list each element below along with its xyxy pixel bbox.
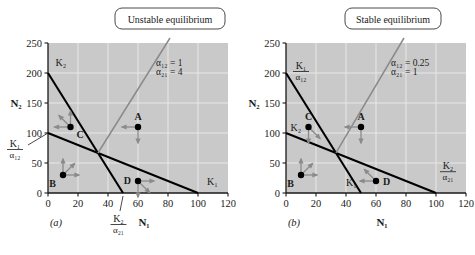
k2-label: K₂ bbox=[291, 122, 302, 133]
k1-over-a12: K₁α₁₂ bbox=[7, 138, 23, 161]
panel-caption: (a) bbox=[50, 217, 63, 229]
point-label-C: C bbox=[77, 129, 84, 140]
k1-label: K₁ bbox=[346, 177, 357, 188]
point-label-D: D bbox=[383, 176, 390, 187]
x-tick-120: 120 bbox=[458, 198, 474, 209]
x-tick-100: 100 bbox=[190, 198, 206, 209]
alpha21-value: α₂₁ = 4 bbox=[156, 67, 183, 77]
x-tick-80: 80 bbox=[401, 198, 412, 209]
x-tick-60: 60 bbox=[371, 198, 382, 209]
equilibrium-callout-text: Unstable equilibrium bbox=[128, 14, 213, 25]
y-axis-label: N₂ bbox=[10, 97, 22, 109]
point-label-B: B bbox=[49, 178, 56, 189]
y-tick-200: 200 bbox=[26, 68, 42, 79]
y-axis-label: N₂ bbox=[248, 97, 260, 109]
panel-a: 020406080100120050100150200250N₁N₂(a)K₂K… bbox=[0, 0, 237, 255]
x-tick-80: 80 bbox=[163, 198, 174, 209]
svg-text:α₁₂: α₁₂ bbox=[10, 150, 21, 160]
alpha12-value: α₁₂ = 0.25 bbox=[391, 58, 430, 68]
x-tick-40: 40 bbox=[341, 198, 352, 209]
panel-b: 020406080100120050100150200250N₁N₂(b)K₂K… bbox=[238, 0, 475, 255]
parameter-block: α₁₂ = 1α₂₁ = 4 bbox=[156, 58, 183, 78]
svg-text:K₁: K₁ bbox=[296, 60, 307, 71]
x-tick-0: 0 bbox=[45, 198, 50, 209]
alpha21-value: α₂₁ = 1 bbox=[391, 67, 418, 77]
y-tick-150: 150 bbox=[26, 98, 42, 109]
y-tick-250: 250 bbox=[264, 38, 280, 49]
svg-text:α₂₁: α₂₁ bbox=[113, 225, 124, 235]
equilibrium-callout: Stable equilibrium bbox=[345, 8, 441, 29]
svg-text:α₁₂: α₁₂ bbox=[296, 72, 307, 82]
point-label-B: B bbox=[287, 178, 294, 189]
data-point-A: A bbox=[134, 111, 142, 130]
y-tick-250: 250 bbox=[26, 38, 42, 49]
y-tick-50: 50 bbox=[270, 158, 281, 169]
y-tick-100: 100 bbox=[26, 128, 42, 139]
equilibrium-callout: Unstable equilibrium bbox=[115, 8, 225, 29]
y-tick-100: 100 bbox=[264, 128, 280, 139]
x-axis-label: N₁ bbox=[376, 216, 387, 228]
k2-label: K₂ bbox=[56, 57, 67, 68]
svg-text:K₂: K₂ bbox=[113, 213, 124, 224]
k1-label: K₁ bbox=[207, 176, 218, 187]
x-tick-120: 120 bbox=[220, 198, 236, 209]
y-tick-200: 200 bbox=[264, 68, 280, 79]
k2-over-a21: K₂α₂₁ bbox=[111, 213, 127, 236]
panel-caption: (b) bbox=[288, 217, 301, 229]
alpha12-value: α₁₂ = 1 bbox=[156, 58, 183, 68]
x-tick-20: 20 bbox=[311, 198, 322, 209]
x-tick-100: 100 bbox=[428, 198, 444, 209]
svg-text:K₁: K₁ bbox=[10, 138, 21, 149]
competition-isocline-figure: 020406080100120050100150200250N₁N₂(a)K₂K… bbox=[0, 0, 475, 255]
point-label-D: D bbox=[124, 175, 131, 186]
y-tick-150: 150 bbox=[264, 98, 280, 109]
svg-text:α₂₁: α₂₁ bbox=[443, 172, 454, 182]
panel-b-plot: 020406080100120050100150200250N₁N₂(b)K₂K… bbox=[238, 0, 475, 255]
point-label-A: A bbox=[357, 111, 365, 122]
x-tick-0: 0 bbox=[283, 198, 288, 209]
x-axis-label: N₁ bbox=[138, 216, 149, 228]
data-point-C: C bbox=[305, 111, 312, 130]
x-tick-60: 60 bbox=[133, 198, 144, 209]
svg-text:K₂: K₂ bbox=[443, 160, 454, 171]
panel-a-plot: 020406080100120050100150200250N₁N₂(a)K₂K… bbox=[0, 0, 237, 255]
y-tick-0: 0 bbox=[275, 188, 280, 199]
y-tick-50: 50 bbox=[32, 158, 43, 169]
y-tick-0: 0 bbox=[37, 188, 42, 199]
point-label-A: A bbox=[134, 111, 142, 122]
x-tick-20: 20 bbox=[73, 198, 84, 209]
data-point-A: A bbox=[357, 111, 365, 130]
point-label-C: C bbox=[305, 111, 312, 122]
x-tick-40: 40 bbox=[103, 198, 114, 209]
equilibrium-callout-text: Stable equilibrium bbox=[356, 14, 430, 25]
